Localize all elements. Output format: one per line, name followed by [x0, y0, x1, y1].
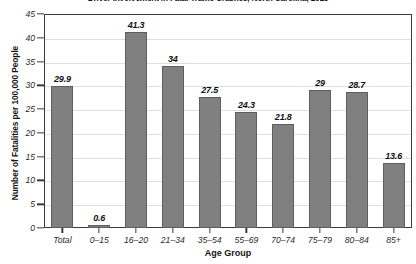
bar-value-label: 24.3 [238, 100, 255, 110]
bar-slot: 0.6 [81, 14, 118, 228]
y-tick-label: 30 [25, 80, 35, 90]
bar[interactable] [383, 163, 405, 228]
x-axis: Total0–1516–2021–3435–5455–6970–7475–798… [44, 228, 412, 264]
bar-value-label: 29.9 [54, 74, 71, 84]
bar[interactable] [346, 92, 368, 228]
bar[interactable] [125, 32, 147, 228]
bar-value-label: 21.8 [275, 112, 292, 122]
y-tick-mark [37, 13, 44, 14]
y-tick-mark [37, 156, 44, 157]
x-tick-label: 85+ [386, 235, 401, 245]
y-tick-label: 35 [25, 57, 35, 67]
bar-value-label: 0.6 [93, 213, 105, 223]
y-tick-mark [37, 227, 44, 228]
x-tick-label: 75–79 [308, 235, 332, 245]
chart-title: Driver Involvement in Fatal Traffic Cras… [0, 0, 416, 4]
x-tick-mark [135, 228, 136, 233]
bar[interactable] [199, 97, 221, 228]
y-tick-mark [37, 85, 44, 86]
y-tick-label: 10 [25, 175, 35, 185]
bar[interactable] [162, 66, 184, 228]
x-tick-mark [62, 228, 63, 233]
y-tick-mark [37, 61, 44, 62]
bar-slot: 34 [154, 14, 191, 228]
x-tick-mark [393, 228, 394, 233]
bar-value-label: 27.5 [201, 85, 218, 95]
y-tick-mark [37, 180, 44, 181]
bar-slot: 41.3 [118, 14, 155, 228]
bar-value-label: 29 [315, 78, 325, 88]
bar-slot: 13.6 [375, 14, 412, 228]
bar[interactable] [235, 112, 257, 228]
x-tick-mark [356, 228, 357, 233]
x-tick-mark [172, 228, 173, 233]
x-tick-label: 70–74 [271, 235, 295, 245]
y-tick-mark [37, 132, 44, 133]
bar-value-label: 34 [168, 54, 178, 64]
bar-slot: 29 [302, 14, 339, 228]
x-tick-mark [99, 228, 100, 233]
bar-value-label: 41.3 [128, 20, 145, 30]
bar-series: 29.90.641.33427.524.321.82928.713.6 [44, 14, 412, 228]
y-tick-mark [37, 108, 44, 109]
y-axis: 051015202530354045 [0, 0, 44, 264]
x-tick-label: 55–69 [234, 235, 258, 245]
bar-chart: Driver Involvement in Fatal Traffic Cras… [0, 0, 416, 264]
bar[interactable] [51, 86, 73, 228]
x-tick-label: 80–84 [345, 235, 369, 245]
bar-value-label: 13.6 [385, 151, 402, 161]
bar-slot: 24.3 [228, 14, 265, 228]
y-tick-label: 25 [25, 104, 35, 114]
bar-slot: 27.5 [191, 14, 228, 228]
y-tick-label: 15 [25, 152, 35, 162]
bar[interactable] [309, 90, 331, 228]
bar-slot: 29.9 [44, 14, 81, 228]
x-tick-label: 35–54 [198, 235, 222, 245]
bar[interactable] [272, 124, 294, 228]
y-tick-label: 40 [25, 33, 35, 43]
x-tick-label: 0–15 [90, 235, 109, 245]
bar-slot: 28.7 [338, 14, 375, 228]
x-axis-title: Age Group [44, 248, 412, 258]
bar-slot: 21.8 [265, 14, 302, 228]
bar-value-label: 28.7 [348, 80, 365, 90]
y-tick-label: 0 [30, 223, 35, 233]
x-tick-label: 21–34 [161, 235, 185, 245]
y-tick-label: 45 [25, 9, 35, 19]
y-tick-label: 5 [30, 199, 35, 209]
y-tick-mark [37, 37, 44, 38]
x-tick-label: 16–20 [124, 235, 148, 245]
x-tick-mark [246, 228, 247, 233]
x-tick-mark [209, 228, 210, 233]
y-tick-label: 20 [25, 128, 35, 138]
y-tick-mark [37, 204, 44, 205]
x-tick-label: Total [53, 235, 71, 245]
x-tick-mark [283, 228, 284, 233]
x-tick-mark [319, 228, 320, 233]
